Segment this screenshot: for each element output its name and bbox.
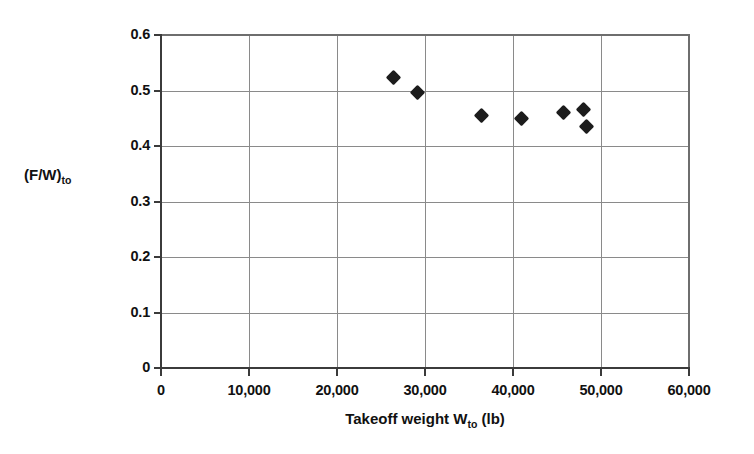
y-axis-tick-label: 0.4 <box>90 137 150 153</box>
scatter-chart-figure: 00.10.20.30.40.50.6 010,00020,00030,0004… <box>0 0 754 454</box>
y-axis-tick <box>154 34 162 36</box>
y-axis-tick-label-wrap: 0.4 <box>88 137 150 155</box>
x-axis-tick-label: 30,000 <box>403 382 446 398</box>
x-axis-tick-label-wrap: 60,000 <box>629 381 749 399</box>
y-axis-tick-label: 0.1 <box>90 304 150 320</box>
x-axis-title: Takeoff weight Wto (lb) <box>161 410 689 427</box>
x-axis-tick <box>160 368 162 376</box>
y-axis-tick-label: 0 <box>90 359 150 375</box>
x-axis-title-main: Takeoff weight W <box>345 410 467 427</box>
x-axis-tick-label: 60,000 <box>667 382 710 398</box>
x-axis-tick-label: 0 <box>157 382 165 398</box>
y-axis-title: (F/W)to <box>24 166 124 183</box>
y-axis-tick <box>154 145 162 147</box>
x-axis-title-subscript: to <box>467 418 477 430</box>
gridline-vertical <box>425 35 426 368</box>
y-axis-tick-label-wrap: 0.1 <box>88 304 150 322</box>
y-axis-title-main: (F/W) <box>24 166 61 183</box>
y-axis-tick-label-wrap: 0.2 <box>88 248 150 266</box>
plot-frame-right <box>688 34 690 368</box>
y-axis-tick-label-wrap: 0 <box>88 359 150 377</box>
y-axis-title-subscript: to <box>61 174 71 186</box>
y-axis-tick-label: 0.5 <box>90 82 150 98</box>
gridline-vertical <box>601 35 602 368</box>
y-axis-tick <box>154 90 162 92</box>
gridline-vertical <box>513 35 514 368</box>
y-axis-tick-label-wrap: 0.5 <box>88 82 150 100</box>
y-axis-tick-label: 0.2 <box>90 248 150 264</box>
x-axis-tick-label: 20,000 <box>315 382 358 398</box>
x-axis-tick <box>512 368 514 376</box>
x-axis-tick-label: 40,000 <box>491 382 534 398</box>
x-axis-tick <box>248 368 250 376</box>
y-axis-tick <box>154 312 162 314</box>
y-axis-tick <box>154 201 162 203</box>
y-axis-tick-label: 0.3 <box>90 193 150 209</box>
gridline-vertical <box>337 35 338 368</box>
gridline-vertical <box>249 35 250 368</box>
x-axis-tick <box>688 368 690 376</box>
x-axis-tick <box>600 368 602 376</box>
plot-frame-top <box>161 34 689 36</box>
x-axis-tick-label: 50,000 <box>579 382 622 398</box>
y-axis-tick-label: 0.6 <box>90 26 150 42</box>
x-axis-tick <box>336 368 338 376</box>
x-axis-tick <box>424 368 426 376</box>
y-axis-tick-label-wrap: 0.6 <box>88 26 150 44</box>
y-axis-tick <box>154 256 162 258</box>
y-axis-tick-label-wrap: 0.3 <box>88 193 150 211</box>
x-axis-title-unit: (lb) <box>477 410 505 427</box>
x-axis-tick-label: 10,000 <box>227 382 270 398</box>
